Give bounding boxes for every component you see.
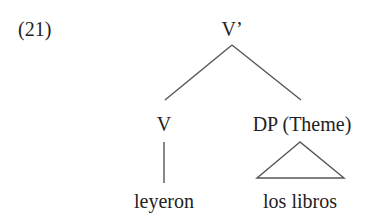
terminal-los-libros: los libros — [263, 191, 337, 211]
terminal-leyeron: leyeron — [134, 191, 194, 211]
node-v-label: V — [157, 114, 171, 134]
tree-branches — [0, 0, 375, 220]
branch-root-to-v — [165, 45, 232, 100]
dp-triangle — [257, 142, 344, 178]
node-dp-label: DP (Theme) — [253, 114, 352, 134]
branch-root-to-dp — [232, 45, 301, 100]
